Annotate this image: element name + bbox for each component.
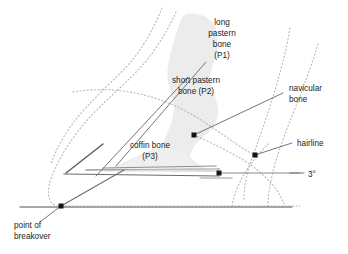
breakover-line1: point of (14, 221, 42, 230)
breakover-leader-line (40, 206, 61, 222)
long-pastern-line2: pastern (208, 29, 236, 38)
short-pastern-line2: bone (P2) (178, 87, 214, 96)
short-pastern-line1: short pastern (172, 76, 220, 85)
coffin-bone-dorsal-edge (66, 144, 103, 173)
long-pastern-line4: (P1) (214, 51, 230, 60)
coffin-bone-axis-line (61, 170, 124, 206)
navicular-bone-marker (192, 133, 197, 138)
hoof-anatomy-diagram: long pastern bone (P1) short pastern bon… (0, 0, 348, 254)
dorsal-hoof-wall-outline (48, 12, 176, 207)
hairline-leader-line (255, 143, 292, 155)
label-point-of-breakover: point of breakover (14, 221, 51, 241)
long-pastern-line1: long (214, 18, 230, 27)
palmar-angle-value: 3° (308, 170, 316, 179)
point-of-breakover-marker (59, 204, 64, 209)
label-hairline: hairline (297, 139, 324, 148)
navicular-line1: navicular (289, 84, 322, 93)
palmar-hoof-wall-outline (268, 44, 318, 206)
label-palmar-angle: 3° (308, 170, 316, 179)
palmar-angle-marker (217, 171, 222, 176)
long-pastern-line3: bone (213, 40, 232, 49)
label-navicular-bone: navicular bone (289, 84, 322, 104)
coffin-bone-line2: (P3) (142, 152, 158, 161)
navicular-line2: bone (289, 95, 308, 104)
breakover-line2: breakover (14, 232, 51, 241)
diagram-canvas: long pastern bone (P1) short pastern bon… (0, 0, 348, 254)
hairline-marker (253, 153, 258, 158)
coffin-bone-solar-surface (64, 174, 219, 176)
hairline-line1: hairline (297, 139, 324, 148)
coffin-bone-line1: coffin bone (130, 141, 171, 150)
